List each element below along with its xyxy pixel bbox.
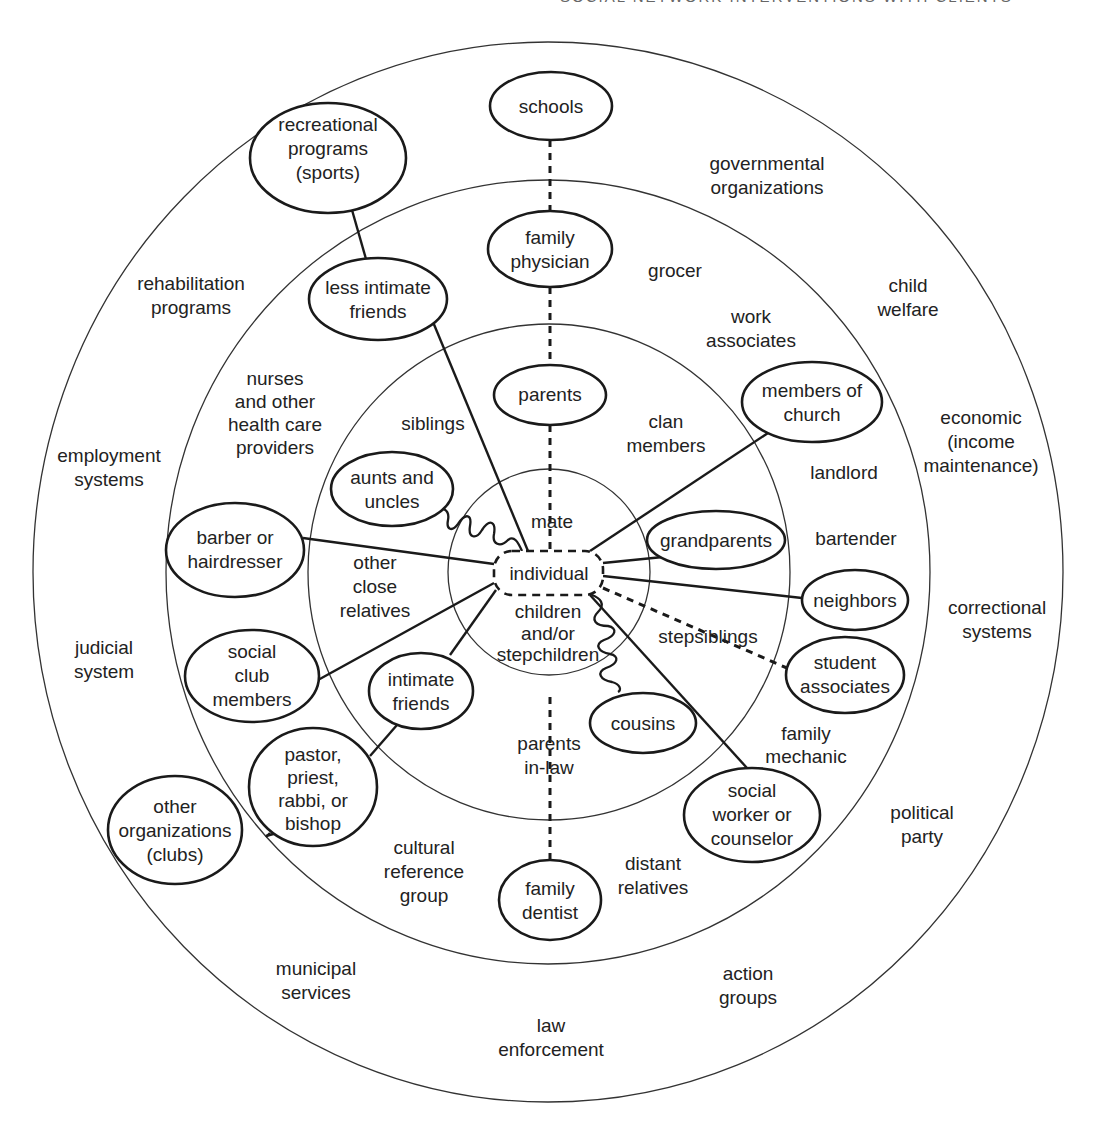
label-law-1: enforcement [498, 1039, 604, 1060]
node-parents[interactable]: parents [494, 365, 606, 425]
label-political-0: political [890, 802, 953, 823]
label-siblings: siblings [401, 413, 464, 434]
label-bartender: bartender [815, 528, 897, 549]
node-cousins[interactable]: cousins [590, 693, 696, 753]
node-other-organizations[interactable]: other organizations (clubs) [108, 776, 242, 884]
label-landlord: landlord [810, 462, 878, 483]
node-label: (clubs) [146, 844, 203, 865]
label-parents-in-law-1: in-law [524, 757, 574, 778]
node-label: cousins [611, 713, 675, 734]
label-distant-1: relatives [618, 877, 689, 898]
node-label: counselor [711, 828, 794, 849]
label-governmental-1: organizations [710, 177, 823, 198]
label-work-1: associates [706, 330, 796, 351]
node-barber-or-hairdresser[interactable]: barber or hairdresser [166, 503, 304, 597]
label-law-0: law [537, 1015, 566, 1036]
node-grandparents[interactable]: grandparents [647, 511, 785, 569]
label-nurses-2: health care [228, 414, 322, 435]
node-pastor-priest-rabbi-bishop[interactable]: pastor, priest, rabbi, or bishop [249, 728, 377, 846]
label-rehab-0: rehabilitation [137, 273, 245, 294]
node-label: social [228, 641, 277, 662]
node-label: priest, [287, 767, 339, 788]
node-intimate-friends[interactable]: intimate friends [369, 653, 473, 729]
label-other-close-2: relatives [340, 600, 411, 621]
label-municipal-0: municipal [276, 958, 356, 979]
label-other-close-0: other [353, 552, 397, 573]
label-nurses-1: and other [235, 391, 316, 412]
link-intimate-friends-individual [450, 590, 496, 655]
label-action-1: groups [719, 987, 777, 1008]
node-label: worker or [711, 804, 792, 825]
node-label: club [235, 665, 270, 686]
node-label: bishop [285, 813, 341, 834]
node-social-club-members[interactable]: social club members [185, 630, 319, 722]
individual-label: individual [509, 563, 588, 584]
label-nurses-0: nurses [246, 368, 303, 389]
node-label: hairdresser [187, 551, 283, 572]
label-correctional-1: systems [962, 621, 1032, 642]
label-governmental-0: governmental [709, 153, 824, 174]
node-label: intimate [388, 669, 455, 690]
label-cultural-0: cultural [393, 837, 454, 858]
label-children-1: and/or [521, 623, 576, 644]
node-less-intimate-friends[interactable]: less intimate friends [309, 258, 447, 340]
label-cultural-2: group [400, 885, 449, 906]
node-social-worker-or-counselor[interactable]: social worker or counselor [684, 768, 820, 862]
node-family-dentist[interactable]: family dentist [499, 860, 601, 940]
node-label: members [212, 689, 291, 710]
link-barber-individual [303, 538, 494, 564]
label-parents-in-law-0: parents [517, 733, 580, 754]
node-label: pastor, [284, 744, 341, 765]
node-label: programs [288, 138, 368, 159]
node-label: aunts and [350, 467, 433, 488]
node-label: neighbors [813, 590, 896, 611]
node-family-physician[interactable]: family physician [488, 211, 612, 287]
node-neighbors[interactable]: neighbors [802, 570, 908, 630]
label-employment-0: employment [57, 445, 161, 466]
node-recreational-programs[interactable]: recreational programs (sports) [250, 103, 406, 213]
label-judicial-0: judicial [74, 637, 133, 658]
label-correctional-0: correctional [948, 597, 1046, 618]
link-pastor-intimate-friends [370, 725, 397, 756]
label-economic-2: maintenance) [923, 455, 1038, 476]
label-other-close-1: close [353, 576, 397, 597]
node-members-of-church[interactable]: members of church [742, 362, 882, 442]
link-neighbors-individual [603, 576, 802, 598]
node-label: friends [349, 301, 406, 322]
label-economic-0: economic [940, 407, 1021, 428]
node-label: recreational [278, 114, 377, 135]
label-economic-1: (income [947, 431, 1015, 452]
node-label: church [783, 404, 840, 425]
node-label: other [153, 796, 197, 817]
node-label: physician [510, 251, 589, 272]
individual-node[interactable]: individual [494, 551, 603, 595]
node-label: members of [762, 380, 863, 401]
node-aunts-and-uncles[interactable]: aunts and uncles [331, 452, 453, 526]
label-clan-0: clan [649, 411, 684, 432]
node-student-associates[interactable]: student associates [786, 637, 904, 713]
node-label: uncles [365, 491, 420, 512]
node-schools[interactable]: schools [490, 72, 612, 140]
label-clan-1: members [626, 435, 705, 456]
label-children-0: children [515, 601, 582, 622]
social-network-diagram: individual schools family physician recr… [0, 0, 1096, 1136]
node-label: organizations [118, 820, 231, 841]
label-mechanic-1: mechanic [765, 746, 846, 767]
label-mechanic-0: family [781, 723, 831, 744]
node-label: family [525, 878, 575, 899]
node-label: friends [392, 693, 449, 714]
node-label: barber or [196, 527, 274, 548]
node-label: parents [518, 384, 581, 405]
label-child-welfare-1: welfare [876, 299, 938, 320]
label-children-2: stepchildren [497, 644, 599, 665]
label-cultural-1: reference [384, 861, 464, 882]
label-political-1: party [901, 826, 944, 847]
node-label: grandparents [660, 530, 772, 551]
label-stepsiblings: stepsiblings [658, 626, 757, 647]
wavy-link-aunts-uncles-individual [432, 508, 522, 551]
label-judicial-1: system [74, 661, 134, 682]
label-municipal-1: services [281, 982, 351, 1003]
node-label: student [814, 652, 877, 673]
label-action-0: action [723, 963, 774, 984]
label-grocer: grocer [648, 260, 703, 281]
